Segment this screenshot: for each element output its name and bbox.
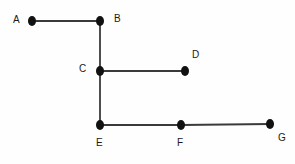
graph-node-f[interactable]	[177, 120, 185, 130]
diagram-canvas: ABCDEFG	[0, 0, 295, 164]
graph-svg	[0, 0, 295, 164]
graph-node-b[interactable]	[96, 16, 104, 26]
node-label-b: B	[114, 14, 121, 24]
node-label-a: A	[13, 15, 20, 25]
graph-node-g[interactable]	[266, 119, 274, 129]
node-layer	[28, 16, 274, 130]
node-label-g: G	[278, 133, 286, 143]
graph-node-e[interactable]	[96, 120, 104, 130]
graph-node-c[interactable]	[96, 66, 104, 76]
graph-edge-f-g	[181, 124, 270, 125]
graph-node-a[interactable]	[28, 16, 36, 26]
node-label-f: F	[177, 138, 183, 148]
node-label-e: E	[96, 138, 103, 148]
edge-layer	[32, 21, 270, 125]
node-label-c: C	[79, 64, 86, 74]
node-label-d: D	[192, 50, 199, 60]
graph-node-d[interactable]	[181, 66, 189, 76]
